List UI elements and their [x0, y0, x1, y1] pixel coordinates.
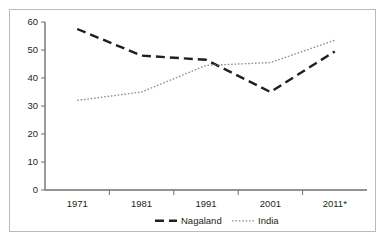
x-tick-label: 1971: [67, 198, 88, 209]
chart-legend: NagalandIndia: [155, 215, 279, 226]
y-tick-label: 20: [27, 128, 38, 139]
series-line-nagaland: [77, 29, 335, 92]
y-axis-tick-labels: 0102030405060: [27, 16, 38, 195]
legend-label-india: India: [258, 215, 279, 226]
y-tick-label: 30: [27, 100, 38, 111]
x-axis-ticks: [109, 190, 302, 195]
y-tick-label: 50: [27, 44, 38, 55]
line-chart: 0102030405060 19711981199120012011* Naga…: [10, 10, 375, 231]
y-axis: 0102030405060: [27, 16, 45, 195]
y-tick-label: 0: [33, 184, 38, 195]
x-axis: 19711981199120012011*: [45, 190, 367, 209]
legend-label-nagaland: Nagaland: [181, 215, 222, 226]
data-series-group: [77, 29, 335, 100]
y-tick-label: 10: [27, 156, 38, 167]
y-tick-label: 60: [27, 16, 38, 27]
series-line-india: [77, 40, 335, 100]
y-tick-label: 40: [27, 72, 38, 83]
chart-figure: 0102030405060 19711981199120012011* Naga…: [9, 9, 376, 232]
x-tick-label: 2011*: [323, 198, 347, 209]
x-tick-label: 1981: [131, 198, 152, 209]
x-tick-label: 1991: [195, 198, 216, 209]
x-tick-label: 2001: [260, 198, 281, 209]
x-axis-tick-labels: 19711981199120012011*: [67, 198, 348, 209]
